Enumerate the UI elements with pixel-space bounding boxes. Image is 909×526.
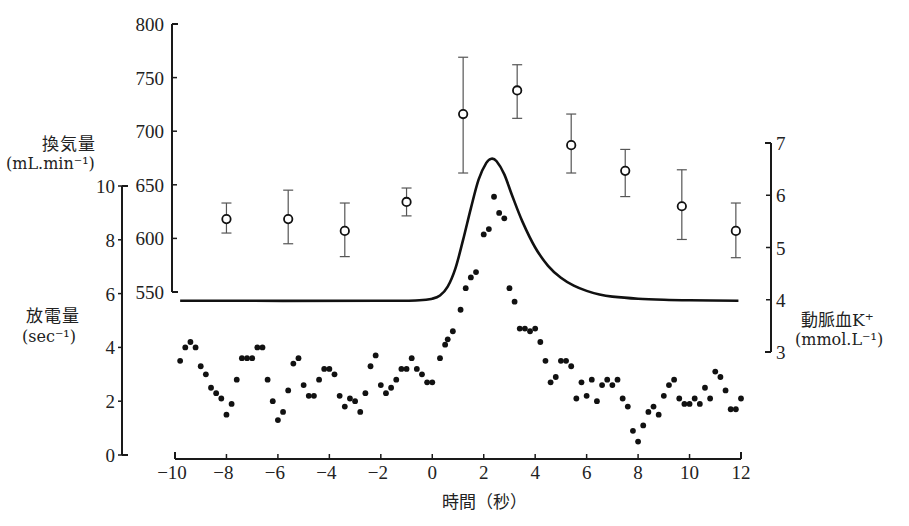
ventilation-point [620, 149, 630, 196]
discharge-point [301, 382, 307, 388]
discharge-point [507, 285, 513, 291]
discharge-point [537, 339, 543, 345]
ventilation-point [677, 170, 687, 240]
discharge-point [337, 393, 343, 399]
discharge-point [280, 409, 286, 415]
discharge-point [599, 382, 605, 388]
ventilation-tick-label: 750 [136, 68, 165, 89]
potassium-tick-label: 6 [776, 185, 786, 206]
x-tick-label: −4 [316, 462, 337, 483]
ventilation-point [512, 65, 522, 119]
discharge-point [563, 358, 569, 364]
discharge-point [254, 345, 260, 351]
discharge-point [682, 401, 688, 407]
discharge-point [368, 363, 374, 369]
discharge-point [203, 371, 209, 377]
discharge-point [326, 366, 332, 372]
discharge-point [723, 388, 729, 394]
discharge-point [239, 355, 245, 361]
x-axis-title: 時間（秒） [442, 488, 527, 513]
discharge-point [383, 390, 389, 396]
potassium-tick-label: 4 [776, 290, 786, 311]
discharge-point [468, 275, 474, 281]
ventilation-point [283, 190, 293, 244]
potassium-tick-label: 3 [776, 342, 786, 363]
discharge-point [589, 377, 595, 383]
discharge-point [442, 342, 448, 348]
discharge-point [512, 299, 518, 305]
discharge-point [249, 355, 255, 361]
discharge-point [260, 345, 266, 351]
discharge-tick-label: 4 [106, 337, 116, 358]
discharge-point [568, 363, 574, 369]
discharge-point [594, 398, 600, 404]
discharge-point [198, 363, 204, 369]
chart-axes [122, 24, 771, 459]
discharge-markers [177, 194, 744, 445]
discharge-point [244, 355, 250, 361]
potassium-tick-label: 5 [776, 238, 786, 259]
chart-canvas: 550600650700750800024681034567−10−8−6−4−… [0, 0, 909, 526]
ventilation-point [731, 203, 741, 258]
discharge-point [213, 390, 219, 396]
discharge-point [429, 379, 435, 385]
discharge-point [712, 369, 718, 375]
discharge-point [463, 285, 469, 291]
x-tick-label: −6 [265, 462, 285, 483]
discharge-point [404, 366, 410, 372]
discharge-point [424, 379, 430, 385]
discharge-point [532, 326, 538, 332]
potassium-line [180, 159, 738, 301]
discharge-point [388, 385, 394, 391]
discharge-point [615, 377, 621, 383]
discharge-axis-unit: (sec⁻¹) [22, 327, 76, 346]
discharge-point [661, 393, 667, 399]
x-tick-label: 12 [732, 462, 751, 483]
discharge-point [229, 401, 235, 407]
discharge-point [553, 374, 559, 380]
discharge-point [362, 390, 368, 396]
discharge-point [234, 377, 240, 383]
discharge-point [373, 353, 379, 359]
discharge-point [378, 382, 384, 388]
x-tick-label: 8 [633, 462, 643, 483]
discharge-point [558, 358, 564, 364]
discharge-point [321, 366, 327, 372]
discharge-point [332, 371, 338, 377]
discharge-point [270, 398, 276, 404]
discharge-point [188, 339, 194, 345]
discharge-tick-label: 6 [106, 284, 116, 305]
potassium-axis-title: 動脈血K⁺ [801, 306, 874, 331]
discharge-point [728, 406, 734, 412]
x-tick-label: 10 [680, 462, 699, 483]
x-tick-label: −2 [368, 462, 388, 483]
discharge-point [548, 379, 554, 385]
discharge-point [481, 232, 487, 238]
discharge-point [316, 377, 322, 383]
discharge-point [342, 404, 348, 410]
ventilation-point [402, 188, 412, 216]
discharge-axis-title: 放電量 [26, 302, 80, 327]
x-tick-label: 4 [530, 462, 540, 483]
discharge-point [414, 366, 420, 372]
discharge-point [676, 396, 682, 402]
potassium-tick-label: 7 [776, 133, 786, 154]
discharge-point [486, 226, 492, 232]
discharge-point [177, 358, 183, 364]
ventilation-axis-title: 換気量 [42, 130, 96, 155]
discharge-point [224, 412, 230, 418]
potassium-axis-unit: (mmol.L⁻¹) [795, 330, 883, 349]
discharge-point [290, 361, 296, 367]
discharge-point [527, 328, 533, 334]
x-tick-label: −10 [157, 462, 187, 483]
ventilation-point [458, 57, 468, 173]
discharge-point [697, 401, 703, 407]
discharge-point [573, 396, 579, 402]
discharge-point [640, 423, 646, 429]
discharge-tick-label: 0 [106, 445, 116, 466]
discharge-point [517, 326, 523, 332]
axis-ticks: 550600650700750800024681034567−10−8−6−4−… [96, 14, 786, 483]
discharge-point [620, 396, 626, 402]
discharge-point [666, 382, 672, 388]
discharge-point [543, 358, 549, 364]
